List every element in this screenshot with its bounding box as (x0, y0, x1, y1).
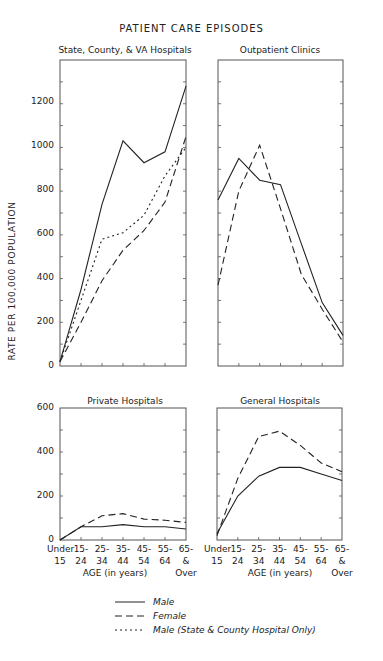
solid-line-icon (115, 599, 145, 605)
legend-label-male: Male (153, 597, 174, 607)
legend: Male Female Male (State & County Hospita… (115, 595, 316, 637)
series-line-male-state-county-hospital-only- (60, 147, 186, 361)
panel-frame (218, 60, 343, 366)
legend-label-male-state-county: Male (State & County Hospital Only) (153, 625, 316, 635)
series-line-male (218, 158, 343, 335)
legend-item-female: Female (115, 609, 316, 623)
series-line-female (60, 137, 186, 362)
series-line-male (217, 467, 342, 533)
panel-frame (60, 60, 186, 366)
plot-area (0, 0, 383, 661)
legend-item-male-state-county: Male (State & County Hospital Only) (115, 623, 316, 637)
series-line-female (217, 431, 342, 535)
legend-item-male: Male (115, 595, 316, 609)
dashed-line-icon (115, 613, 145, 619)
series-line-female (218, 145, 343, 342)
legend-label-female: Female (153, 611, 186, 621)
panel-frame (217, 408, 342, 540)
series-line-male (60, 86, 186, 361)
dotted-line-icon (115, 627, 145, 633)
